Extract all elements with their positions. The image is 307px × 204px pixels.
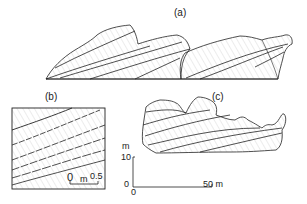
main-scale-axes [133,157,212,187]
panel-a-label: (a) [174,8,186,18]
horizontal-max-label: 50 m [203,180,223,189]
scale-b-unit: m [80,175,88,184]
panel-c-label: (c) [212,92,224,102]
scale-b-zero: 0 [67,172,73,183]
diagram-canvas [0,0,307,204]
panel-a-drawing [46,25,292,79]
vertical-zero-label: 0 [124,180,129,189]
scale-b-max: 0.5 [90,172,103,181]
vertical-max-label: 10 [121,153,131,162]
panel-c-drawing [142,97,285,153]
vertical-unit-label: m [122,142,130,151]
horizontal-zero-label: 0 [131,188,136,197]
panel-b-label: (b) [45,92,57,102]
